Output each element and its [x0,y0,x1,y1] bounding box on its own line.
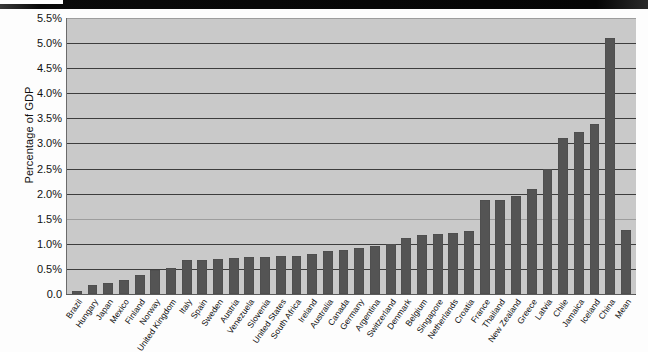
bar[interactable] [448,233,458,294]
bar-slot [618,18,634,294]
bar[interactable] [464,231,474,294]
bar-slot [85,18,101,294]
bar-slot [210,18,226,294]
bar-slot [69,18,85,294]
bar[interactable] [150,270,160,294]
bar[interactable] [244,257,254,294]
x-tick-slot: Mean [617,296,633,352]
bar[interactable] [213,259,223,294]
x-tick-slot: Italy [178,296,194,352]
bar-chart: Percentage of GDP 5.5%5.0%4.5%4.0%3.5%3.… [0,9,648,352]
bar[interactable] [590,124,600,294]
scan-artifact-band [0,0,648,9]
x-tick-slot: South Africa [288,296,304,352]
bar[interactable] [433,234,443,294]
bar[interactable] [292,256,302,294]
plot-area [66,18,636,294]
bar[interactable] [511,196,521,294]
x-tick-slot: Japan [99,296,115,352]
bars-layer [67,18,636,294]
bar-slot [226,18,242,294]
bar[interactable] [307,254,317,294]
bar-slot [351,18,367,294]
bar-slot [367,18,383,294]
bar[interactable] [370,246,380,294]
bar-slot [587,18,603,294]
x-axis-tick-labels: BrazilHungaryJapanMexicoFinlandNorwayUni… [66,296,635,352]
bar-slot [493,18,509,294]
bar-slot [336,18,352,294]
x-tick-slot: Croatia [460,296,476,352]
bar-slot [540,18,556,294]
bar-slot [195,18,211,294]
bar[interactable] [135,275,145,294]
y-tick-label: 0.5% [37,263,62,275]
bar[interactable] [495,200,505,294]
bar-slot [116,18,132,294]
bar[interactable] [88,285,98,294]
bar[interactable] [480,200,490,294]
bar-slot [477,18,493,294]
bar-slot [179,18,195,294]
x-tick-slot: United Kingdom [162,296,178,352]
bar[interactable] [605,38,615,294]
bar-slot [257,18,273,294]
y-tick-label: 4.5% [37,62,62,74]
y-tick-label: 4.0% [37,87,62,99]
y-tick-label: 2.0% [37,188,62,200]
bar[interactable] [323,251,333,294]
bar-slot [163,18,179,294]
bar[interactable] [260,257,270,294]
bar-slot [524,18,540,294]
y-tick-label: 0.0 [47,288,62,300]
bar-slot [132,18,148,294]
bar-slot [602,18,618,294]
y-tick-label: 3.5% [37,112,62,124]
bar-slot [461,18,477,294]
bar-slot [147,18,163,294]
y-tick-label: 1.5% [37,213,62,225]
y-axis-tick-labels: 5.5%5.0%4.5%4.0%3.5%3.0%2.5%2.0%1.5%1.0%… [22,9,62,352]
bar-slot [383,18,399,294]
bar[interactable] [621,230,631,294]
bar-slot [304,18,320,294]
y-tick-label: 1.0% [37,238,62,250]
bar[interactable] [339,250,349,294]
x-tick-slot: Greece [523,296,539,352]
bar[interactable] [543,169,553,294]
bar[interactable] [276,256,286,294]
bar[interactable] [401,238,411,294]
bar[interactable] [417,235,427,294]
bar-slot [100,18,116,294]
bar-slot [430,18,446,294]
bar-slot [320,18,336,294]
bar[interactable] [229,258,239,294]
y-tick-label: 5.0% [37,37,62,49]
x-tick-slot: China [601,296,617,352]
bar-slot [446,18,462,294]
x-tick-slot: Sweden [209,296,225,352]
bar-slot [571,18,587,294]
x-axis-line [66,294,635,295]
y-tick-label: 3.0% [37,137,62,149]
bar-slot [414,18,430,294]
y-tick-label: 5.5% [37,12,62,24]
x-tick-slot: Latvia [539,296,555,352]
bar[interactable] [119,280,129,294]
bar[interactable] [166,268,176,294]
x-tick-slot: Iceland [586,296,602,352]
bar[interactable] [197,260,207,294]
bar-slot [289,18,305,294]
bar[interactable] [527,189,537,294]
bar-slot [398,18,414,294]
bar[interactable] [558,138,568,294]
bar[interactable] [103,283,113,294]
bar-slot [508,18,524,294]
bar[interactable] [182,260,192,294]
bar[interactable] [354,248,364,294]
bar[interactable] [574,132,584,294]
bar-slot [273,18,289,294]
bar-slot [242,18,258,294]
bar[interactable] [386,244,396,294]
y-tick-label: 2.5% [37,163,62,175]
